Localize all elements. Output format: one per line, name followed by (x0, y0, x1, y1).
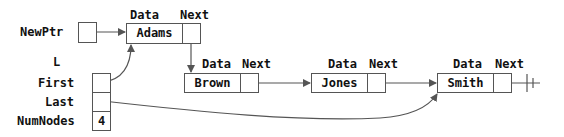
numnodes-label: NumNodes (17, 114, 75, 128)
brown-data-header: Data (202, 57, 231, 71)
adams-next-header: Next (180, 8, 209, 22)
newptr-box (78, 22, 97, 43)
smith-next-cell (493, 73, 512, 93)
first-label: First (38, 76, 74, 90)
last-label: Last (45, 95, 74, 109)
jones-data-cell: Jones (311, 73, 368, 93)
first-field-box (92, 73, 111, 93)
brown-data-cell: Brown (184, 73, 241, 93)
smith-next-header: Next (495, 57, 524, 71)
smith-data-header: Data (453, 57, 482, 71)
jones-data-header: Data (328, 57, 357, 71)
last-field-box (92, 92, 111, 112)
brown-next-cell (240, 73, 259, 93)
smith-data-cell: Smith (437, 73, 494, 93)
newptr-label: NewPtr (20, 25, 63, 39)
adams-data-header: Data (130, 8, 159, 22)
adams-next-cell (182, 23, 201, 44)
adams-data-cell: Adams (126, 23, 183, 44)
brown-next-header: Next (242, 57, 271, 71)
jones-next-header: Next (369, 57, 398, 71)
jones-next-cell (367, 73, 386, 93)
list-name-label: L (53, 55, 60, 69)
last-arrow (103, 94, 437, 119)
numnodes-field-box: 4 (92, 111, 111, 131)
